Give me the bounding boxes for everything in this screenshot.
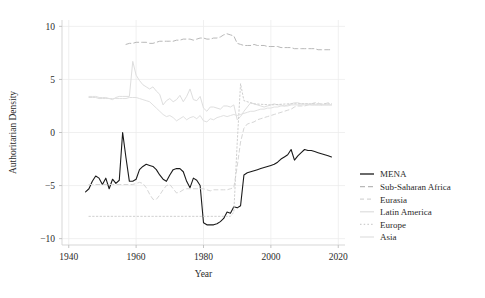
y-tick-label: 0 (50, 128, 55, 138)
legend-label: Latin America (380, 207, 432, 217)
legend-label: Sub-Saharan Africa (380, 182, 451, 192)
tick-label-group: 1050−5−1019401960198020002020 (40, 22, 348, 262)
legend-item-latin-america[interactable]: Latin America (360, 207, 432, 217)
y-tick-label: −10 (40, 234, 55, 244)
series-line-asia (89, 96, 332, 121)
y-tick-label: 10 (46, 22, 56, 32)
x-axis-title: Year (195, 269, 213, 279)
legend-item-europe[interactable]: Europe (360, 220, 406, 230)
legend-label: MENA (380, 169, 407, 179)
legend-item-mena[interactable]: MENA (360, 169, 407, 179)
chart-figure: 1050−5−1019401960198020002020 YearAuthor… (0, 0, 485, 298)
x-tick-label: 2000 (261, 252, 280, 262)
legend-item-sub-saharan-africa[interactable]: Sub-Saharan Africa (360, 182, 451, 192)
axis-ticks (59, 26, 338, 248)
y-tick-label: −5 (45, 181, 55, 191)
legend-item-asia[interactable]: Asia (360, 232, 397, 242)
y-tick-label: 5 (50, 75, 55, 85)
x-tick-label: 1960 (127, 252, 146, 262)
y-axis-title: Authoritarian Density (8, 91, 18, 174)
legend-label: Europe (380, 220, 406, 230)
chart-canvas: 1050−5−1019401960198020002020 YearAuthor… (0, 0, 485, 298)
data-series-group (86, 34, 332, 225)
gridlines (62, 20, 345, 245)
legend[interactable]: MENASub-Saharan AfricaEurasiaLatin Ameri… (360, 169, 451, 242)
legend-item-eurasia[interactable]: Eurasia (360, 195, 407, 205)
x-tick-label: 1940 (59, 252, 78, 262)
series-line-sub-saharan-africa (126, 34, 332, 50)
x-tick-label: 2020 (329, 252, 348, 262)
series-line-mena (86, 133, 332, 225)
series-line-latin-america (89, 61, 332, 119)
legend-label: Eurasia (380, 195, 407, 205)
legend-label: Asia (380, 232, 397, 242)
x-tick-label: 1980 (194, 252, 213, 262)
